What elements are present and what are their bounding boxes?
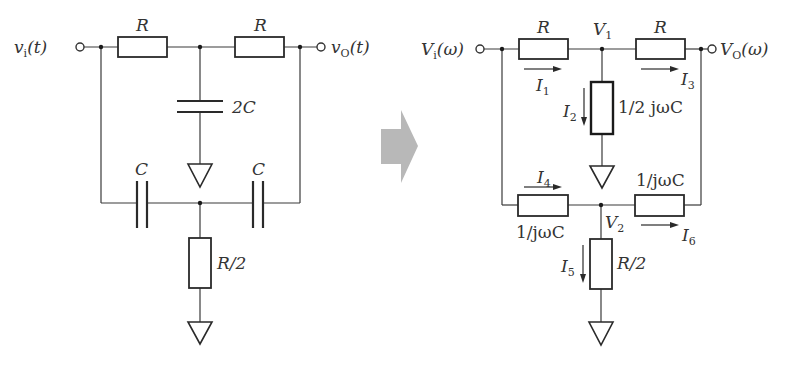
current-arrow-i3 (641, 66, 679, 72)
junction-dot (500, 47, 504, 51)
resistor-r-half (590, 239, 612, 289)
junction-dot (198, 45, 202, 49)
label-r-half: R/2 (216, 253, 246, 273)
transform-arrow-icon (381, 110, 418, 183)
current-label-i1: I1 (535, 75, 550, 98)
node-v2-dot (599, 203, 603, 207)
left-circuit: vi(t) vO(t) R R 2C C C R/2 (14, 15, 370, 344)
current-arrow-i2 (581, 88, 587, 126)
circuit-diagram: vi(t) vO(t) R R 2C C C R/2 (0, 0, 801, 365)
output-terminal (708, 45, 716, 53)
label-c-left: C (135, 159, 148, 179)
junction-dot (99, 45, 103, 49)
ground-icon (589, 322, 613, 345)
ground-icon (188, 322, 212, 344)
capacitor-c-right (253, 181, 263, 228)
resistor-r-half (189, 238, 211, 288)
label-r-left: R (135, 15, 149, 35)
capacitor-2c (177, 101, 223, 112)
label-jwc-left: 1/jωC (516, 222, 565, 242)
current-label-i3: I3 (680, 69, 695, 92)
input-label: Vi(ω) (421, 39, 464, 62)
resistor-r-left (519, 39, 568, 59)
impedance-half-jwc (591, 82, 613, 134)
node-v1-label: V1 (593, 19, 612, 42)
node-v2-label: V2 (605, 212, 624, 235)
impedance-jwc-left (518, 195, 568, 216)
capacitor-c-left (137, 181, 147, 228)
node-v1-dot (600, 47, 604, 51)
output-label: VO(ω) (720, 39, 768, 62)
current-label-i5: I5 (560, 256, 575, 279)
label-2c: 2C (231, 97, 256, 117)
junction-dot (699, 47, 703, 51)
current-label-i6: I6 (681, 225, 696, 248)
right-circuit: Vi(ω) VO(ω) V1 V2 R R 1/2 jωC 1/jωC 1/jω… (421, 17, 768, 345)
output-label: vO(t) (331, 37, 370, 60)
label-r-right: R (653, 17, 667, 37)
resistor-r-right (235, 37, 284, 57)
output-terminal (317, 43, 325, 51)
junction-dot (198, 201, 202, 205)
current-label-i4: I4 (536, 167, 551, 190)
junction-dot (298, 45, 302, 49)
label-jwc-right: 1/jωC (636, 170, 685, 190)
label-r-left: R (536, 17, 550, 37)
resistor-r-left (118, 37, 167, 57)
input-terminal (476, 45, 484, 53)
label-r-right: R (253, 15, 267, 35)
ground-icon (188, 164, 212, 187)
input-label: vi(t) (14, 37, 47, 60)
current-arrow-i1 (524, 66, 562, 72)
current-label-i2: I2 (562, 101, 577, 124)
label-r-half: R/2 (616, 253, 646, 273)
current-arrow-i5 (580, 245, 586, 283)
input-terminal (76, 43, 84, 51)
resistor-r-right (636, 39, 685, 59)
impedance-jwc-right (635, 195, 684, 216)
ground-icon (590, 166, 614, 188)
label-half-jwc: 1/2 jωC (618, 97, 683, 117)
label-c-right: C (252, 159, 265, 179)
current-arrow-i6 (641, 222, 679, 228)
